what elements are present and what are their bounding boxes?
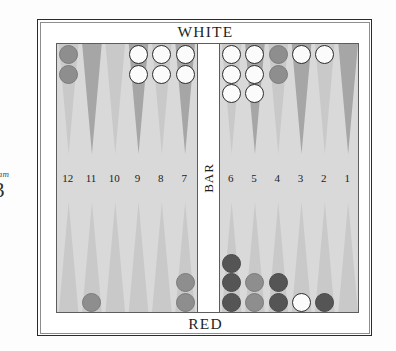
checker-red-point-6[interactable] xyxy=(222,293,241,312)
figure-caption: ram 3 xyxy=(0,170,36,201)
point-number-11: 11 xyxy=(79,172,102,184)
point-number-9: 9 xyxy=(126,172,149,184)
checker-red-point-6[interactable] xyxy=(222,254,241,273)
point-triangle xyxy=(337,44,360,154)
point-top-left-1[interactable] xyxy=(80,44,103,154)
checker-red-point-4[interactable] xyxy=(269,65,288,84)
point-bot-left-0[interactable] xyxy=(57,202,80,312)
checker-white-point-3[interactable] xyxy=(292,45,311,64)
label-red: RED xyxy=(38,315,373,333)
checker-white-point-8[interactable] xyxy=(152,65,171,84)
point-bot-left-3[interactable] xyxy=(127,202,150,312)
label-white: WHITE xyxy=(38,23,373,41)
checker-white-point-3[interactable] xyxy=(292,293,311,312)
caption-word: ram xyxy=(0,170,36,179)
point-bot-left-4[interactable] xyxy=(150,202,173,312)
point-top-right-5[interactable] xyxy=(337,44,360,154)
checker-white-point-6[interactable] xyxy=(222,45,241,64)
checker-red-point-7[interactable] xyxy=(176,293,195,312)
diagram-page: ram 3 WHITE RED BAR 121110987654321 xyxy=(0,0,396,351)
point-number-8: 8 xyxy=(149,172,172,184)
point-number-5: 5 xyxy=(242,172,265,184)
checker-red-point-12[interactable] xyxy=(59,65,78,84)
point-triangle xyxy=(80,44,103,154)
checker-white-point-9[interactable] xyxy=(129,65,148,84)
checker-red-point-12[interactable] xyxy=(59,45,78,64)
point-number-7: 7 xyxy=(173,172,196,184)
point-number-1: 1 xyxy=(336,172,359,184)
point-number-6: 6 xyxy=(219,172,242,184)
point-top-left-2[interactable] xyxy=(104,44,127,154)
checker-white-point-5[interactable] xyxy=(245,65,264,84)
point-triangle xyxy=(127,202,150,312)
point-triangle xyxy=(337,202,360,312)
point-number-strip: 121110987654321 xyxy=(56,172,359,190)
point-number-10: 10 xyxy=(103,172,126,184)
checker-red-point-7[interactable] xyxy=(176,273,195,292)
point-number-3: 3 xyxy=(289,172,312,184)
point-triangle xyxy=(57,202,80,312)
point-number-12: 12 xyxy=(56,172,79,184)
point-number-4: 4 xyxy=(266,172,289,184)
checker-red-point-4[interactable] xyxy=(269,45,288,64)
checker-red-point-4[interactable] xyxy=(269,293,288,312)
point-triangle xyxy=(104,44,127,154)
point-bot-right-5[interactable] xyxy=(337,202,360,312)
point-number-2: 2 xyxy=(312,172,335,184)
point-triangle xyxy=(150,202,173,312)
checker-white-point-6[interactable] xyxy=(222,65,241,84)
caption-number: 3 xyxy=(0,180,36,201)
checker-white-point-9[interactable] xyxy=(129,45,148,64)
board-frame: WHITE RED BAR 121110987654321 xyxy=(37,19,372,336)
checker-white-point-7[interactable] xyxy=(176,65,195,84)
point-bot-left-2[interactable] xyxy=(104,202,127,312)
point-triangle xyxy=(104,202,127,312)
checker-white-point-7[interactable] xyxy=(176,45,195,64)
